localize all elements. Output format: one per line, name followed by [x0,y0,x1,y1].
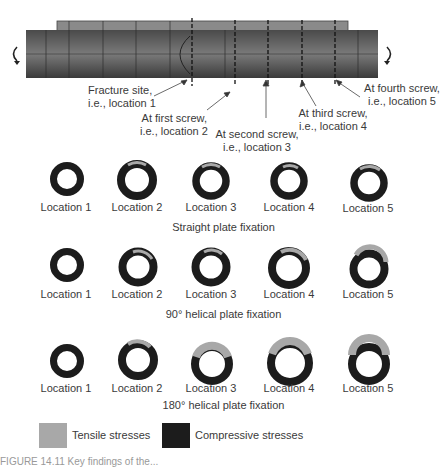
row1-location-2-label: Location 2 [112,201,163,213]
row2-location-4-label: Location 4 [264,288,315,300]
row2-location-2-label: Location 2 [112,288,163,300]
row2-location-1-label: Location 1 [41,288,92,300]
row-90-helical-rings [54,247,387,285]
row1-location-1-label: Location 1 [41,201,92,213]
row2-caption: 90° helical plate fixation [0,308,447,320]
row3-location-4-label: Location 4 [264,382,315,394]
row-180-helical-rings [54,338,387,382]
row1-location-4-label: Location 4 [264,201,315,213]
legend-tensile-swatch [39,423,67,448]
row3-caption: 180° helical plate fixation [0,399,447,411]
row3-location-5-label: Location 5 [343,382,394,394]
row1-caption: Straight plate fixation [0,221,447,233]
figure-caption: FIGURE 14.11 Key findings of the... [0,456,158,467]
row3-location-1-label: Location 1 [41,382,92,394]
legend-tensile-label: Tensile stresses [72,429,150,441]
legend-compressive-swatch [162,423,190,448]
row3-location-3-label: Location 3 [186,382,237,394]
row1-location-5-label: Location 5 [343,202,394,214]
legend-compressive-label: Compressive stresses [195,429,303,441]
row1-location-3-label: Location 3 [186,201,237,213]
row2-location-5-label: Location 5 [343,288,394,300]
row2-location-3-label: Location 3 [186,288,237,300]
row-straight-rings [54,163,385,198]
row3-location-2-label: Location 2 [112,382,163,394]
